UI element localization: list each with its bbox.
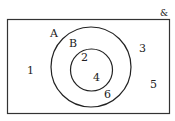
element-6: 6 <box>104 88 111 101</box>
element-1: 1 <box>27 64 34 77</box>
venn-diagram: & A B 1 2 3 4 5 6 <box>0 0 175 121</box>
set-a-circle <box>51 27 131 107</box>
set-b-label: B <box>69 37 77 50</box>
set-b-circle <box>71 49 113 91</box>
element-2: 2 <box>81 51 88 64</box>
element-4: 4 <box>93 71 100 84</box>
universal-set-label: & <box>160 8 168 18</box>
element-3: 3 <box>139 42 146 55</box>
set-a-label: A <box>49 27 59 40</box>
element-5: 5 <box>150 78 157 91</box>
